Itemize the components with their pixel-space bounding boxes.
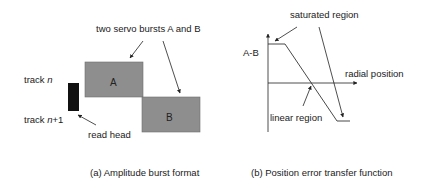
arrow-linear-region [303, 86, 311, 106]
burst-b-label: B [166, 112, 173, 123]
read-head-label: read head [88, 129, 131, 140]
burst-a-label: A [110, 77, 117, 88]
linear-region-label: linear region [270, 112, 322, 123]
arrow-to-burst-a [130, 41, 143, 58]
caption-b: (b) Position error transfer function [251, 167, 393, 178]
arrow-saturated-top [275, 27, 297, 41]
track-n-label: track n [24, 74, 53, 85]
saturated-region-label: saturated region [290, 9, 359, 20]
track-n-plus-1-label: track n+1 [24, 114, 63, 125]
arrow-saturated-bottom [319, 27, 343, 117]
caption-a: (a) Amplitude burst format [90, 167, 200, 178]
servo-burst-diagram: two servo bursts A and B A B track n tra… [0, 0, 432, 188]
servo-bursts-title: two servo bursts A and B [96, 23, 201, 34]
arrow-to-read-head [78, 115, 96, 125]
transfer-function-curve [268, 44, 350, 121]
arrow-to-burst-b [163, 41, 180, 93]
panel-a-amplitude-burst-format: two servo bursts A and B A B track n tra… [24, 23, 201, 178]
y-axis-label: A-B [243, 47, 259, 58]
x-axis-label: radial position [345, 68, 404, 79]
panel-b-position-error-transfer: A-B radial position saturated region lin… [243, 9, 404, 178]
read-head-block [68, 83, 79, 111]
